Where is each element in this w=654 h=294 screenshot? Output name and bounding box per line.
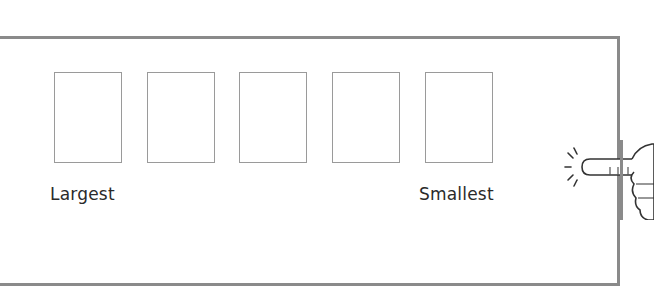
label-smallest: Smallest bbox=[419, 184, 494, 204]
answer-box-5[interactable] bbox=[425, 72, 493, 163]
answer-box-2[interactable] bbox=[147, 72, 215, 163]
answer-box-4[interactable] bbox=[332, 72, 400, 163]
answer-box-3[interactable] bbox=[239, 72, 307, 163]
pointing-hand-icon bbox=[560, 140, 654, 220]
label-largest: Largest bbox=[50, 184, 115, 204]
answer-box-1[interactable] bbox=[54, 72, 122, 163]
